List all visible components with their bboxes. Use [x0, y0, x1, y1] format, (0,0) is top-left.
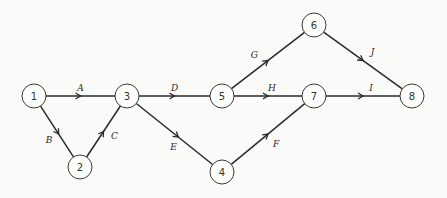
node-label: 4	[219, 167, 225, 178]
node-4: 4	[210, 160, 234, 184]
edge-label: C	[111, 131, 118, 141]
node-label: 3	[124, 91, 130, 102]
node-7: 7	[302, 84, 326, 108]
edge-line	[136, 103, 212, 164]
edge-label: H	[267, 83, 276, 93]
nodes-group: 12345678	[22, 13, 424, 184]
node-label: 2	[77, 162, 83, 173]
edge-label: J	[369, 47, 376, 57]
node-3: 3	[115, 84, 139, 108]
edge-E: E	[136, 103, 212, 164]
node-label: 5	[219, 91, 225, 102]
edge-J: J	[324, 32, 403, 89]
edge-label: E	[169, 142, 177, 152]
node-6: 6	[302, 13, 326, 37]
edge-line	[41, 106, 74, 157]
node-5: 5	[210, 84, 234, 108]
edge-A: A	[46, 83, 115, 99]
edge-F: F	[231, 104, 304, 165]
node-label: 6	[311, 20, 317, 31]
node-1: 1	[22, 84, 46, 108]
edge-C: C	[87, 106, 121, 157]
edge-label: G	[251, 50, 258, 60]
node-2: 2	[68, 155, 92, 179]
edge-label: D	[170, 83, 178, 93]
node-8: 8	[400, 84, 424, 108]
edge-label: I	[368, 83, 373, 93]
network-diagram: ABCDEFGHIJ 12345678	[0, 0, 447, 198]
edge-D: D	[139, 83, 210, 99]
node-label: 8	[409, 91, 415, 102]
edge-G: G	[231, 32, 304, 88]
edge-I: I	[326, 83, 400, 99]
edge-H: H	[234, 83, 302, 99]
edge-label: B	[45, 135, 53, 145]
edge-label: A	[76, 83, 84, 93]
edge-label: F	[272, 139, 280, 149]
node-label: 7	[311, 91, 317, 102]
edge-B: B	[41, 106, 74, 157]
node-label: 1	[31, 91, 37, 102]
